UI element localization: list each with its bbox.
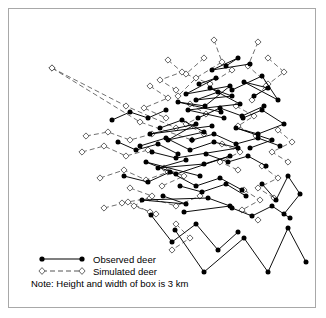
- simulated-deer-point: [79, 149, 85, 155]
- observed-deer-point: [266, 86, 271, 91]
- observed-deer-point: [194, 184, 199, 189]
- observed-deer-point: [260, 182, 265, 187]
- observed-deer-point: [194, 122, 199, 127]
- trajectory-path: [175, 228, 306, 272]
- observed-deer-point: [242, 236, 247, 241]
- observed-deer-point: [202, 130, 207, 135]
- observed-deer-point: [188, 148, 193, 153]
- observed-deer-point: [138, 144, 143, 149]
- observed-deer-point: [186, 108, 191, 113]
- observed-deer-point: [170, 240, 175, 245]
- simulated-deer-point: [123, 103, 129, 109]
- observed-deer-point: [150, 150, 155, 155]
- simulated-deer-point: [97, 175, 103, 181]
- observed-deer-point: [206, 196, 211, 201]
- simulated-deer-point: [121, 167, 127, 173]
- simulated-deer-point: [169, 247, 175, 253]
- observed-deer-point: [174, 172, 179, 177]
- simulated-deer-point: [125, 199, 131, 205]
- observed-deer-point: [266, 270, 271, 275]
- observed-deer-point: [246, 154, 251, 159]
- legend-label-simulated-deer: Simulated deer: [93, 266, 157, 277]
- observed-deer-point: [194, 222, 199, 227]
- simulated-deer-point: [285, 159, 291, 165]
- figure-container: Observed deer Simulated deer Note: Heigh…: [0, 0, 326, 318]
- legend-observed-marker-end: [79, 256, 84, 261]
- legend-simulated-marker-start: [39, 268, 45, 275]
- observed-deer-point: [134, 148, 139, 153]
- observed-deer-point: [168, 170, 173, 175]
- observed-deer-point: [116, 140, 121, 145]
- observed-deer-point: [161, 194, 166, 199]
- observed-deer-point: [202, 162, 207, 167]
- trajectory-path: [144, 86, 168, 118]
- simulated-deer-point: [163, 115, 169, 121]
- observed-deer-point: [128, 110, 133, 115]
- observed-deer-point: [149, 213, 154, 218]
- simulated-deer-point: [141, 105, 147, 111]
- simulated-deer-point: [255, 185, 261, 191]
- observed-deer-point: [218, 106, 223, 111]
- deer-movement-plot: Observed deer Simulated deer Note: Heigh…: [0, 0, 326, 318]
- observed-deer-point: [184, 158, 189, 163]
- observed-deer-point: [164, 136, 169, 141]
- observed-deer-point: [148, 132, 153, 137]
- trajectory-path: [86, 132, 152, 140]
- observed-deer-point: [216, 90, 221, 95]
- observed-deer-point: [200, 190, 205, 195]
- observed-deer-point: [282, 122, 287, 127]
- observed-deer-point: [236, 56, 241, 61]
- observed-deer-point: [248, 62, 253, 67]
- observed-deer-point: [216, 248, 221, 253]
- observed-deer-point: [250, 214, 255, 219]
- observed-deer-point: [230, 94, 235, 99]
- simulated-deer-point: [127, 137, 133, 143]
- legend-item-simulated-deer: Simulated deer: [39, 266, 157, 277]
- simulated-deer-point: [229, 67, 235, 73]
- observed-deer-point: [202, 270, 207, 275]
- observed-deer-point: [282, 212, 287, 217]
- observed-deer-point: [224, 64, 229, 69]
- observed-deer-point: [240, 114, 245, 119]
- observed-deer-point: [184, 92, 189, 97]
- observed-deer-point: [262, 104, 267, 109]
- trajectory-path: [151, 215, 238, 250]
- observed-deer-point: [180, 118, 185, 123]
- simulated-deer-point: [165, 95, 171, 101]
- simulated-deer-point: [49, 65, 55, 71]
- observed-deer-point: [178, 184, 183, 189]
- observed-deer-point: [234, 126, 239, 131]
- simulated-deer-point: [123, 153, 129, 159]
- observed-deer-point: [194, 98, 199, 103]
- observed-deer-point: [260, 74, 265, 79]
- simulated-deer-point: [157, 77, 163, 83]
- simulated-deer-point: [269, 149, 275, 155]
- observed-deer-point: [197, 82, 202, 87]
- observed-deer-point: [144, 160, 149, 165]
- trajectory-path: [180, 184, 246, 196]
- simulated-deer-point: [235, 167, 241, 173]
- observed-deer-point: [230, 206, 235, 211]
- observed-deer-point: [203, 104, 208, 109]
- observed-deer-point: [164, 108, 169, 113]
- observed-deer-point: [252, 94, 257, 99]
- trajectory-path: [206, 154, 266, 166]
- simulated-deer-point: [173, 87, 179, 93]
- scale-note: Note: Height and width of box is 3 km: [31, 278, 188, 289]
- observed-deer-point: [182, 210, 187, 215]
- simulated-deer-point: [127, 185, 133, 191]
- observed-deer-point: [176, 152, 181, 157]
- observed-deer-point: [214, 76, 219, 81]
- observed-deer-point: [198, 174, 203, 179]
- observed-deer-point: [274, 198, 279, 203]
- legend: Observed deer Simulated deer Note: Heigh…: [31, 254, 188, 290]
- simulated-deer-point: [173, 203, 179, 209]
- legend-observed-marker-start: [39, 256, 44, 261]
- observed-deer-series: [110, 56, 309, 275]
- simulated-deer-point: [101, 205, 107, 211]
- simulated-deer-point: [137, 119, 143, 125]
- observed-deer-point: [173, 228, 178, 233]
- simulated-deer-point: [159, 183, 165, 189]
- simulated-deer-point: [147, 83, 153, 89]
- simulated-deer-point: [153, 211, 159, 217]
